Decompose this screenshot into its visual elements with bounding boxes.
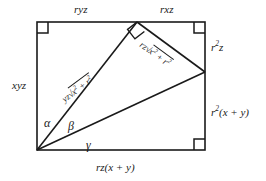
line-origin-to-right-vertex [37, 72, 205, 150]
right-angle-mark-top-right [194, 22, 205, 33]
angle-label-beta: β [68, 120, 74, 132]
diagram-canvas [0, 0, 266, 181]
label-top-right-side: rxz [160, 4, 173, 15]
label-right-lower-side: r2(x + y) [211, 105, 249, 118]
label-bottom-side: rz(x + y) [96, 162, 135, 173]
angle-label-gamma: γ [86, 139, 91, 151]
right-angle-mark-top-left [37, 22, 48, 33]
label-right-upper-tail: z [219, 41, 223, 53]
right-angle-mark-bottom-right [194, 139, 205, 150]
angle-label-alpha: α [44, 117, 50, 129]
geometry-diagram: ryz rxz xyz r2z r2(x + y) rz(x + y) yz√x… [0, 0, 266, 181]
label-right-lower-tail: (x + y) [219, 106, 249, 118]
label-top-left-side: ryz [74, 4, 87, 15]
label-left-side: xyz [12, 80, 26, 91]
label-right-upper-side: r2z [211, 40, 223, 53]
